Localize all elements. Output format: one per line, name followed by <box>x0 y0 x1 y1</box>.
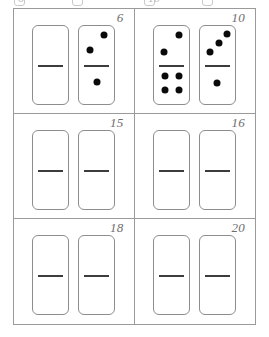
domino-tile[interactable] <box>78 130 115 210</box>
domino-half-bottom[interactable] <box>200 171 235 210</box>
pip-dot <box>207 48 214 55</box>
cell-sum-label: 15 <box>110 116 124 129</box>
domino-half-bottom[interactable] <box>154 66 189 105</box>
domino-half-bottom[interactable] <box>79 66 114 105</box>
domino-half-top[interactable] <box>200 131 235 170</box>
domino-half-top[interactable] <box>79 131 114 170</box>
domino-half-bottom[interactable] <box>33 276 68 315</box>
domino-half-bottom[interactable] <box>33 66 68 105</box>
domino-half-bottom[interactable] <box>154 171 189 210</box>
domino-tile[interactable] <box>32 235 69 315</box>
domino-tile[interactable] <box>153 235 190 315</box>
domino-pair <box>14 235 134 317</box>
pip-dot <box>176 73 183 80</box>
domino-pair <box>135 25 256 107</box>
domino-tile[interactable] <box>78 25 115 105</box>
domino-half-bottom[interactable] <box>79 276 114 315</box>
domino-tile[interactable] <box>78 235 115 315</box>
domino-half-top[interactable] <box>200 26 235 65</box>
clipped-row-remnant: 610 <box>0 0 269 8</box>
remnant-domino-4 <box>202 0 213 6</box>
pip-dot <box>161 73 168 80</box>
domino-tile[interactable] <box>32 25 69 105</box>
domino-half-bottom[interactable] <box>154 276 189 315</box>
pip-dot <box>176 87 183 94</box>
pip-dot <box>161 48 168 55</box>
domino-pair <box>135 235 256 317</box>
domino-tile[interactable] <box>199 235 236 315</box>
remnant-cell-label: 6 <box>18 0 24 6</box>
domino-half-bottom[interactable] <box>200 276 235 315</box>
domino-half-bottom[interactable] <box>200 66 235 105</box>
domino-pair <box>135 130 256 212</box>
domino-half-top[interactable] <box>33 236 68 275</box>
grid-cell-18[interactable]: 18 <box>14 219 135 324</box>
pip-dot <box>93 79 100 86</box>
domino-pair <box>14 25 134 107</box>
remnant-domino-2 <box>72 0 83 6</box>
grid-cell-16[interactable]: 16 <box>135 114 256 219</box>
domino-tile[interactable] <box>199 25 236 105</box>
remnant-cell-label: 10 <box>148 0 160 6</box>
domino-half-top[interactable] <box>79 236 114 275</box>
domino-half-top[interactable] <box>154 26 189 65</box>
cell-sum-label: 18 <box>110 221 124 234</box>
cell-sum-label: 10 <box>231 11 245 24</box>
cell-sum-label: 6 <box>117 11 124 24</box>
domino-puzzle-grid: 61015161820 <box>13 8 256 325</box>
domino-half-top[interactable] <box>33 131 68 170</box>
domino-half-top[interactable] <box>200 236 235 275</box>
cell-sum-label: 20 <box>231 221 245 234</box>
domino-half-top[interactable] <box>33 26 68 65</box>
domino-tile[interactable] <box>32 130 69 210</box>
domino-half-top[interactable] <box>154 236 189 275</box>
pip-dot <box>86 47 93 54</box>
grid-cell-15[interactable]: 15 <box>14 114 135 219</box>
pip-dot <box>216 40 223 47</box>
domino-half-top[interactable] <box>79 26 114 65</box>
pip-dot <box>176 32 183 39</box>
domino-tile[interactable] <box>153 130 190 210</box>
domino-tile[interactable] <box>153 25 190 105</box>
domino-pair <box>14 130 134 212</box>
domino-tile[interactable] <box>199 130 236 210</box>
domino-half-bottom[interactable] <box>79 171 114 210</box>
grid-cell-20[interactable]: 20 <box>135 219 256 324</box>
cell-sum-label: 16 <box>231 116 245 129</box>
pip-dot <box>161 87 168 94</box>
pip-dot <box>214 80 221 87</box>
pip-dot <box>101 32 108 39</box>
domino-half-bottom[interactable] <box>33 171 68 210</box>
grid-cell-6[interactable]: 6 <box>14 9 135 114</box>
grid-cell-10[interactable]: 10 <box>135 9 256 114</box>
domino-half-top[interactable] <box>154 131 189 170</box>
pip-dot <box>223 30 230 37</box>
